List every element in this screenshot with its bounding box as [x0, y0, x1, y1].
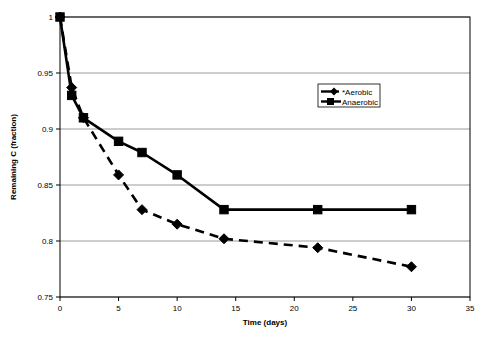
square-marker	[79, 114, 87, 122]
chart-container: 0.750.80.850.90.951 05101520253035 Time …	[0, 0, 490, 338]
y-tick-label: 0.85	[37, 181, 53, 190]
square-icon	[327, 98, 334, 105]
y-tick-label: 0.8	[42, 237, 54, 246]
x-tick-label: 30	[407, 304, 416, 313]
x-tick-label: 15	[231, 304, 240, 313]
y-tick-label: 0.95	[37, 69, 53, 78]
y-tick-label: 0.9	[42, 125, 54, 134]
square-marker	[407, 205, 415, 213]
line-chart: 0.750.80.850.90.951 05101520253035 Time …	[0, 0, 490, 338]
x-tick-label: 0	[58, 304, 63, 313]
y-tick-label: 0.75	[37, 293, 53, 302]
y-tick-label: 1	[49, 13, 54, 22]
x-tick-label: 35	[466, 304, 475, 313]
x-axis-title: Time (days)	[243, 318, 288, 327]
y-axis-tick-labels: 0.750.80.850.90.951	[37, 13, 53, 302]
y-axis-ticks	[56, 17, 60, 297]
plot-background	[60, 17, 470, 297]
square-marker	[173, 171, 181, 179]
x-axis-ticks	[60, 297, 470, 301]
square-marker	[138, 148, 146, 156]
x-tick-label: 25	[348, 304, 357, 313]
y-axis-title: Remaining C (fraction)	[9, 114, 18, 200]
x-axis-tick-labels: 05101520253035	[58, 304, 475, 313]
square-marker	[314, 205, 322, 213]
square-marker	[114, 137, 122, 145]
legend-label-aerobic: *Aerobic	[342, 88, 372, 97]
square-marker	[56, 13, 64, 21]
legend-label-anaerobic: Anaerobic	[342, 98, 378, 107]
square-marker	[220, 205, 228, 213]
square-marker	[68, 91, 76, 99]
chart-legend: *Aerobic Anaerobic	[318, 84, 380, 107]
x-tick-label: 20	[290, 304, 299, 313]
x-tick-label: 10	[173, 304, 182, 313]
x-tick-label: 5	[116, 304, 121, 313]
